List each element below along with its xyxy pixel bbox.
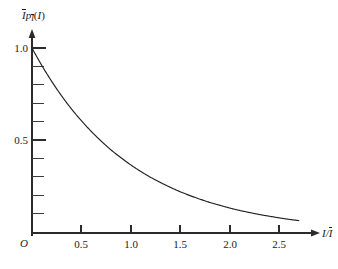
y-tick-label-1: 1.0 bbox=[2, 43, 28, 54]
y-axis-title-p-subscript: I bbox=[31, 14, 34, 23]
y-axis-title-ibar: I bbox=[22, 9, 26, 22]
x-tick-label-0: 0.5 bbox=[74, 239, 88, 250]
x-tick-label-4: 2.5 bbox=[272, 239, 286, 250]
plot-canvas bbox=[0, 0, 338, 269]
exponential-decay-curve bbox=[32, 48, 299, 221]
origin-label: O bbox=[20, 238, 28, 249]
x-axis-title: I/I bbox=[322, 227, 332, 240]
y-tick-label-0: 0.5 bbox=[2, 135, 28, 146]
y-axis-arrow-icon bbox=[29, 29, 36, 38]
y-axis-title-paren-close: ) bbox=[41, 9, 45, 21]
y-axis-title: IpI(I) bbox=[22, 9, 45, 23]
x-tick-label-2: 1.5 bbox=[173, 239, 187, 250]
x-axis-title-denominator: I bbox=[329, 227, 333, 240]
x-tick-marks bbox=[81, 225, 279, 233]
x-axis-arrow-icon bbox=[311, 230, 320, 237]
figure-root: IpI(I) I/I O 0.5 1.0 1.5 2.0 2.5 0.5 1.0 bbox=[0, 0, 338, 269]
x-tick-label-3: 2.0 bbox=[223, 239, 237, 250]
x-tick-label-1: 1.0 bbox=[124, 239, 138, 250]
y-tick-marks-major bbox=[32, 48, 46, 140]
